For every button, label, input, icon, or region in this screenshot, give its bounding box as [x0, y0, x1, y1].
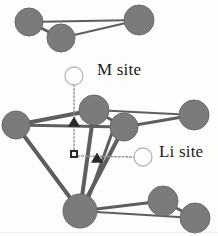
bond-topleft-topright [29, 20, 139, 22]
m-site-triangle-marker [68, 117, 80, 127]
atom-bottom-right [180, 203, 210, 233]
atom-mid-right [179, 100, 209, 130]
m-site-label: M site [97, 60, 141, 80]
li-site-square-marker [71, 151, 77, 157]
atom-center-lower [110, 113, 138, 141]
structure-diagram-canvas [0, 0, 218, 236]
m-site-open-circle [65, 67, 83, 85]
li-site-label: Li site [159, 142, 203, 162]
atom-top-right [124, 5, 154, 35]
atom-bottom-mid [148, 186, 178, 216]
li-site-open-circle [134, 148, 152, 166]
atom-top-middle [47, 24, 75, 52]
li-site-triangle-marker [91, 153, 103, 163]
atom-center-upper [79, 95, 109, 125]
atom-mid-left [2, 111, 30, 139]
dotted-horizontal-li-site [78, 156, 134, 157]
atom-bottom-left [63, 194, 97, 228]
structure-figure: M site Li site [0, 0, 218, 236]
atom-top-left [15, 8, 43, 36]
